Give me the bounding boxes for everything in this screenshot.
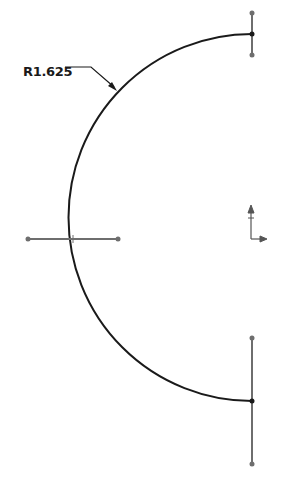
endpoint[interactable]	[250, 11, 255, 16]
endpoint[interactable]	[26, 237, 31, 242]
arc-endpoint[interactable]	[250, 399, 255, 404]
origin-axes-icon	[248, 205, 267, 242]
radius-dimension-label[interactable]: R1.625	[23, 64, 72, 79]
endpoint[interactable]	[250, 53, 255, 58]
arc-entity[interactable]	[68, 34, 252, 401]
endpoint[interactable]	[250, 462, 255, 467]
dimension-leader[interactable]	[65, 67, 114, 87]
arc-endpoint[interactable]	[250, 32, 255, 37]
sketch-canvas[interactable]: R1.625	[0, 0, 286, 498]
endpoint[interactable]	[250, 336, 255, 341]
endpoint[interactable]	[116, 237, 121, 242]
